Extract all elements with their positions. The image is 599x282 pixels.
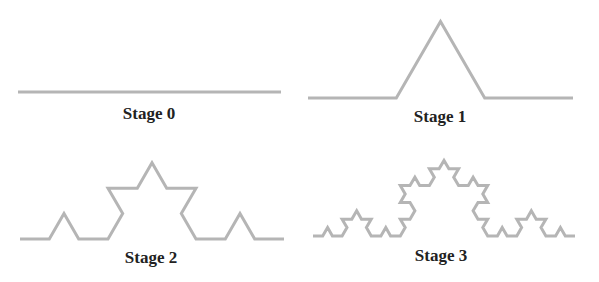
- stage-1-label: Stage 1: [414, 108, 466, 125]
- stage-2-label: Stage 2: [125, 249, 177, 266]
- koch-curve-stage-1: [308, 22, 573, 99]
- koch-diagram-canvas: [0, 0, 599, 282]
- koch-curve-stage-3: [313, 160, 575, 236]
- stage-3-label: Stage 3: [415, 247, 467, 264]
- koch-curve-stage-2: [20, 163, 284, 239]
- stage-0-label: Stage 0: [123, 105, 175, 122]
